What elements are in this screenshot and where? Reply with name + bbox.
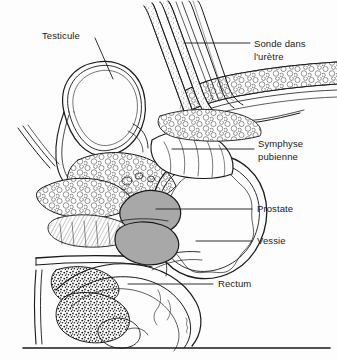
label-symphyse-line1: Symphyse (258, 138, 303, 149)
anal-canal-region (35, 270, 43, 344)
label-prostate: Prostate (257, 203, 293, 216)
label-testicule: Testicule (42, 30, 80, 43)
label-sonde-line1: Sonde dans (254, 38, 306, 49)
prostate-region (115, 190, 181, 264)
label-symphyse-line2: pubienne (258, 151, 298, 162)
label-rectum: Rectum (218, 278, 251, 291)
symphysis-pubis-region (151, 109, 261, 178)
leader-testicule (95, 38, 113, 79)
label-symphyse-pubienne: Symphysepubienne (258, 137, 303, 163)
label-sonde-line2: l'urètre (254, 51, 284, 62)
label-vessie: Vessie (257, 235, 286, 248)
anatomical-figure: Testicule Sonde dansl'urètre Symphysepub… (0, 0, 337, 360)
anal-sphincter-mass (51, 267, 148, 349)
label-sonde-dans-l-uretre: Sonde dansl'urètre (254, 37, 306, 63)
